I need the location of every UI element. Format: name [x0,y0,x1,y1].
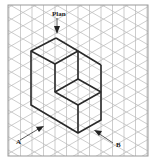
view-a-label: A [16,139,21,146]
isometric-figure [0,0,149,161]
plan-label: Plan [52,11,66,18]
view-b-label: B [116,142,121,149]
